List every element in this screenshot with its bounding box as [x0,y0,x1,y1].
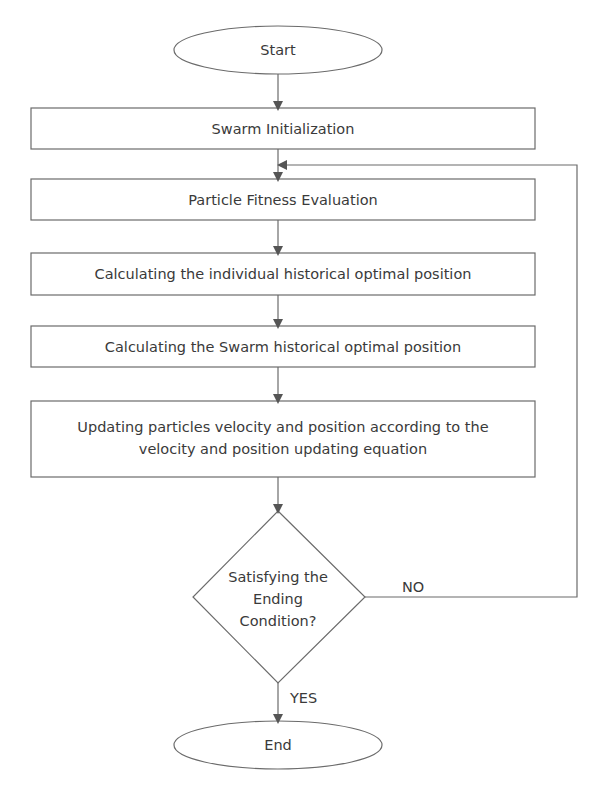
no-branch-label: NO [402,577,424,597]
decision-label-line3: Condition? [193,611,363,631]
step-label-update-line1: Updating particles velocity and position… [31,417,535,437]
step-label-swarm-optimal-position: Calculating the Swarm historical optimal… [31,326,535,367]
start-label: Start [174,26,382,74]
step-label-particle-fitness-evaluation: Particle Fitness Evaluation [31,179,535,220]
step-label-swarm-initialization: Swarm Initialization [31,108,535,149]
decision-label-line2: Ending [193,589,363,609]
yes-branch-label: YES [290,688,317,708]
step-label-individual-optimal-position: Calculating the individual historical op… [31,253,535,295]
decision-label-line1: Satisfying the [193,567,363,587]
arrow-decision-no-loop [282,165,577,597]
step-label-update-line2: velocity and position updating equation [31,439,535,459]
end-label: End [174,721,382,769]
